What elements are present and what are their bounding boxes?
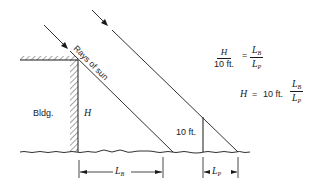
eq1-lhs-numerator: H: [217, 48, 232, 59]
building-label: Bldg.: [33, 109, 54, 118]
lb-subscript: B: [121, 171, 125, 177]
eq2-numerator: LB: [290, 79, 303, 92]
eq1-lhs-fraction: H 10 ft.: [214, 48, 234, 70]
eq2-fraction: LB LP: [290, 79, 303, 105]
eq1-rhs-numerator: LB: [250, 45, 263, 58]
building-wall: [70, 60, 78, 152]
lp-subscript: P: [218, 171, 222, 177]
lb-label: LB: [115, 166, 124, 177]
height-label: H: [84, 108, 91, 118]
ground-line: [20, 150, 250, 153]
pole-height-label: 10 ft.: [176, 128, 196, 137]
eq2-denominator: LP: [292, 92, 301, 104]
eq1-rhs-denominator: LP: [252, 58, 261, 70]
eq1-rhs-fraction: LB LP: [250, 45, 263, 71]
lp-label: LP: [212, 166, 221, 177]
eq2-equals: =: [252, 90, 257, 99]
eq1-lhs-denominator: 10 ft.: [214, 59, 234, 69]
sun-ray-building: [44, 25, 173, 152]
sun-ray-pole: [92, 10, 238, 152]
eq2-lhs: H: [240, 89, 247, 99]
building-roof: [20, 56, 78, 60]
eq2-coefficient: 10 ft.: [263, 90, 283, 99]
eq1-equals: =: [242, 51, 247, 60]
